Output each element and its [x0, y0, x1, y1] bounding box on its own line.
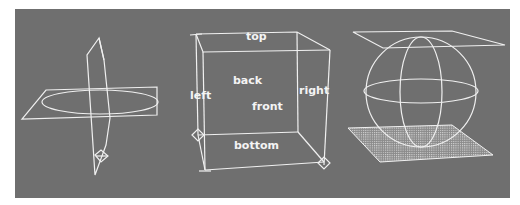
sphere-equator: [364, 79, 478, 103]
label-front: front: [252, 100, 283, 113]
intersecting-planes-figure: [22, 38, 158, 175]
label-back: back: [233, 74, 263, 87]
sphere-figure: [348, 31, 505, 162]
label-bottom: bottom: [234, 139, 279, 152]
diagram-canvas: top back left front right bottom: [0, 0, 520, 205]
top-plane: [353, 31, 505, 48]
label-top: top: [246, 30, 267, 43]
label-left: left: [190, 89, 211, 102]
label-right: right: [299, 84, 329, 97]
grid-plane: [348, 125, 493, 162]
horizontal-ellipse: [42, 90, 158, 114]
